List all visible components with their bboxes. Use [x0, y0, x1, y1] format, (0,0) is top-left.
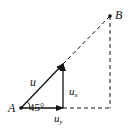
angle-label: 45°: [29, 101, 44, 113]
label-uy: uy: [54, 112, 64, 126]
label-a: A: [7, 101, 16, 115]
dashed-line-ab: [63, 16, 110, 64]
vector-diagram: A B u 45° ux uy: [0, 0, 131, 132]
label-u: u: [30, 75, 36, 89]
point-a: [19, 106, 23, 110]
diagram-svg: A B u 45° ux uy: [0, 0, 131, 132]
label-ux: ux: [69, 85, 79, 99]
label-b: B: [115, 8, 123, 22]
point-b: [108, 14, 112, 18]
